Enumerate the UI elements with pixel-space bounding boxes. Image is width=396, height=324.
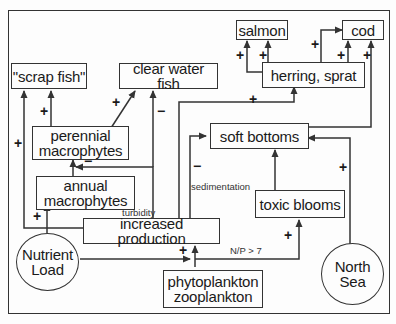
node-clear-water-fish-label: clear water fish [120, 61, 217, 91]
node-plankton-label-2: zooplankton [174, 289, 253, 304]
node-perennial-label-1: perennial [51, 128, 111, 143]
node-plankton-label-1: phytoplankton [168, 274, 259, 289]
node-clear-water-fish: clear water fish [119, 63, 218, 89]
sign-plus: + [112, 95, 120, 109]
node-herring-sprat-label: herring, sprat [271, 68, 357, 83]
sign-plus: + [284, 228, 292, 242]
sign-minus: − [84, 154, 92, 168]
sign-plus: + [33, 209, 41, 223]
node-north-sea-label-1: North [335, 259, 371, 274]
node-north-sea-label-2: Sea [339, 274, 365, 289]
sign-minus: − [193, 159, 201, 173]
node-plankton: phytoplankton zooplankton [163, 270, 263, 308]
edge-label-turbidity: turbidity [122, 208, 155, 218]
node-nutrient-label-1: Nutrient [22, 247, 73, 262]
sign-plus: + [179, 243, 187, 257]
node-herring-sprat: herring, sprat [262, 62, 365, 88]
node-perennial-label-2: macrophytes [39, 143, 123, 158]
node-annual-label-1: annual [64, 178, 108, 193]
node-increased-production-label: increased production [84, 216, 219, 246]
node-increased-production: increased production [83, 218, 220, 244]
sign-plus: + [249, 92, 257, 106]
node-toxic-blooms: toxic blooms [255, 190, 345, 218]
edge-label-sedimentation: sedimentation [191, 182, 250, 192]
node-north-sea: North Sea [321, 243, 384, 305]
sign-plus: + [337, 48, 345, 62]
sign-plus: + [311, 37, 319, 51]
node-nutrient-label-2: Load [31, 262, 64, 277]
node-toxic-blooms-label: toxic blooms [260, 197, 341, 212]
node-perennial-macrophytes: perennial macrophytes [32, 126, 129, 160]
node-annual-label-2: macrophytes [44, 193, 128, 208]
sign-minus: − [157, 104, 165, 118]
node-salmon-label: salmon [238, 23, 285, 38]
node-cod-label: cod [351, 23, 375, 38]
node-soft-bottoms-label: soft bottoms [220, 129, 299, 144]
sign-plus: + [236, 48, 244, 62]
node-soft-bottoms: soft bottoms [210, 123, 309, 149]
node-annual-macrophytes: annual macrophytes [36, 176, 135, 210]
sign-plus: + [339, 160, 347, 174]
node-salmon: salmon [236, 20, 288, 40]
sign-plus: + [259, 48, 267, 62]
sign-plus: + [14, 136, 22, 150]
node-cod: cod [342, 20, 384, 40]
edge-label-np-ratio: N/P > 7 [230, 246, 262, 256]
sign-plus: + [40, 104, 48, 118]
node-nutrient-load: Nutrient Load [16, 233, 79, 291]
node-scrap-fish-label: "scrap fish" [13, 69, 85, 84]
sign-plus: + [363, 48, 371, 62]
node-scrap-fish: "scrap fish" [11, 63, 87, 89]
